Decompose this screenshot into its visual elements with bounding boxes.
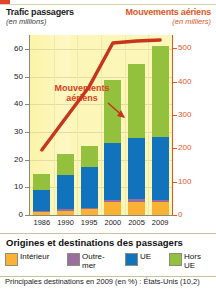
legend-items: IntérieurOutre-merUEHorsUE bbox=[5, 252, 213, 274]
legend-label: HorsUE bbox=[184, 252, 214, 270]
line-series-layer bbox=[0, 5, 216, 233]
legend-label: Outre-mer bbox=[82, 252, 116, 270]
legend-swatch-icon bbox=[5, 253, 18, 266]
legend-label: Intérieur bbox=[20, 252, 49, 261]
legend-swatch-icon bbox=[169, 253, 182, 266]
legend-title: Origines et destinations des passagers bbox=[6, 237, 183, 248]
chart-panel: Trafic passagers (en millions) Mouvement… bbox=[0, 5, 216, 233]
legend-panel: Origines et destinations des passagers I… bbox=[0, 233, 216, 277]
footnote: Principales destinations en 2009 (en %) … bbox=[5, 277, 215, 286]
figure-root: Trafic passagers (en millions) Mouvement… bbox=[0, 0, 216, 296]
legend-swatch-icon bbox=[125, 253, 138, 266]
legend-label: UE bbox=[140, 252, 151, 261]
legend-swatch-icon bbox=[67, 253, 80, 266]
mouvements-aeriens-line bbox=[42, 40, 160, 150]
